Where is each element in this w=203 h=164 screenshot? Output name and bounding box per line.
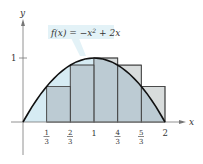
svg-text:3: 3 xyxy=(116,138,120,146)
svg-text:1: 1 xyxy=(92,129,97,138)
svg-text:3: 3 xyxy=(139,138,143,146)
y-tick-label: 1 xyxy=(11,53,16,63)
svg-text:2: 2 xyxy=(163,128,168,138)
svg-text:4: 4 xyxy=(116,129,121,137)
x-tick-labels: 1 3 2 3 1 4 3 5 3 2 xyxy=(44,128,168,146)
x-axis-label: x xyxy=(189,117,194,127)
svg-text:2: 2 xyxy=(68,129,72,137)
function-label: f(x) = −x2 + 2x xyxy=(50,27,120,38)
svg-text:3: 3 xyxy=(68,138,72,146)
y-axis-label: y xyxy=(19,8,26,18)
y-axis-arrow-icon xyxy=(21,19,25,26)
svg-text:3: 3 xyxy=(45,138,49,146)
svg-text:1: 1 xyxy=(45,129,49,137)
x-axis-arrow-icon xyxy=(179,120,186,124)
riemann-sum-diagram: f(x) = −x2 + 2x y x 1 1 3 2 3 1 4 3 5 3 … xyxy=(0,0,203,164)
svg-text:5: 5 xyxy=(139,129,143,137)
